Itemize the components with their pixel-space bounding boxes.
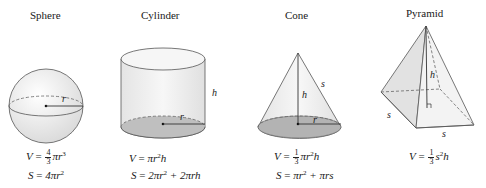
sphere-radius-label: r: [62, 93, 66, 104]
pyramid-figure: [381, 26, 474, 128]
equals: =: [282, 169, 294, 181]
term: h: [314, 150, 320, 162]
sphere-volume-formula: V = 43πr3: [26, 147, 66, 166]
term: πr: [147, 152, 157, 164]
equals: =: [137, 169, 149, 181]
cylinder-figure: [121, 48, 205, 138]
fraction: 13: [293, 149, 299, 166]
pyramid-side-label-bottom: s: [442, 128, 446, 139]
cone-volume-formula: V = 13πr2h: [274, 147, 319, 166]
equals: =: [34, 169, 46, 181]
term: 4πr: [45, 169, 60, 181]
sphere-figure: [9, 69, 83, 143]
lhs: V: [26, 150, 33, 162]
cylinder-surface-formula: S = 2πr2 + 2πrh: [131, 166, 201, 182]
term: πr: [300, 150, 310, 162]
denominator: 3: [45, 158, 51, 166]
cone-height-label: h: [302, 89, 307, 100]
denominator: 3: [293, 158, 299, 166]
cylinder-height-label: h: [212, 87, 217, 98]
equals: =: [416, 150, 428, 162]
exponent: 3: [62, 150, 66, 158]
lhs: V: [409, 150, 416, 162]
equals: =: [33, 150, 45, 162]
cone-surface-formula: S = πr2 + πrs: [276, 166, 334, 182]
cone-figure: [258, 53, 341, 138]
term: πr: [52, 150, 62, 162]
lhs: V: [129, 152, 136, 164]
pyramid-volume-formula: V = 13s2h: [409, 147, 449, 166]
lhs: V: [274, 150, 281, 162]
term: h: [443, 150, 449, 162]
sphere-surface-formula: S = 4πr2: [28, 166, 64, 182]
denominator: 3: [428, 158, 434, 166]
cylinder-volume-formula: V = πr2h: [129, 149, 166, 165]
term: πr: [293, 169, 303, 181]
pyramid-side-label-left: s: [387, 109, 391, 120]
cone-slant-label: s: [321, 78, 325, 89]
fraction: 13: [428, 149, 434, 166]
equals: =: [136, 152, 148, 164]
exponent: 2: [61, 169, 65, 177]
term: + πrs: [307, 169, 334, 181]
cone-radius-label: r: [313, 114, 317, 125]
term: + 2πrh: [167, 169, 201, 181]
term: 2πr: [148, 169, 163, 181]
equals: =: [281, 150, 293, 162]
cylinder-radius-label: r: [180, 111, 184, 122]
fraction: 43: [45, 149, 51, 166]
pyramid-height-label: h: [430, 69, 435, 80]
term: h: [161, 152, 167, 164]
